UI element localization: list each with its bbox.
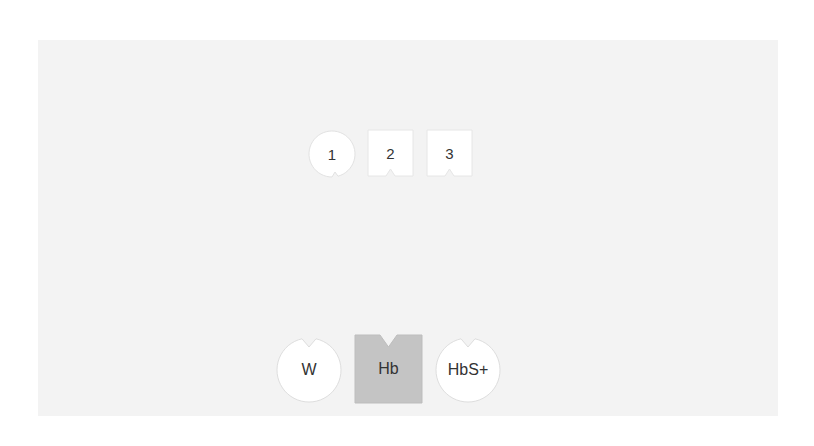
slot-1[interactable]: 1: [308, 130, 356, 178]
piece-hbs-plus[interactable]: HbS+: [435, 337, 501, 403]
notched-circle-icon: [308, 130, 356, 178]
notched-circle-icon: [435, 337, 501, 403]
piece-hb[interactable]: Hb: [355, 335, 422, 403]
piece-w[interactable]: W: [276, 337, 342, 403]
notched-square-icon: [355, 335, 422, 403]
notched-square-icon: [427, 130, 472, 176]
slot-2[interactable]: 2: [368, 130, 413, 176]
notched-circle-icon: [276, 337, 342, 403]
notched-square-icon: [368, 130, 413, 176]
slot-3[interactable]: 3: [427, 130, 472, 176]
